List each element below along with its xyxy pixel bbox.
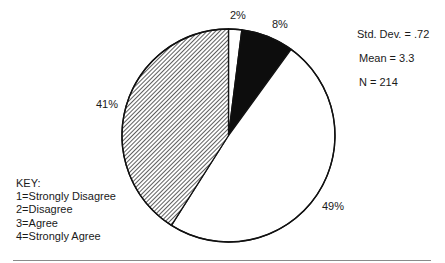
legend-key: KEY: 1=Strongly Disagree 2=Disagree 3=Ag… xyxy=(16,177,116,243)
legend-item-1: 1=Strongly Disagree xyxy=(16,190,116,203)
pie-slices xyxy=(122,29,335,242)
mean-text: Mean = 3.3 xyxy=(359,52,429,64)
slice-label-disagree: 8% xyxy=(272,18,288,30)
legend-item-4: 4=Strongly Agree xyxy=(16,230,116,243)
legend-item-2: 2=Disagree xyxy=(16,203,116,216)
std-dev-text: Std. Dev. = .72 xyxy=(357,28,429,40)
legend-title: KEY: xyxy=(16,177,116,190)
slice-label-strongly-agree: 41% xyxy=(96,98,118,110)
bottom-divider xyxy=(13,260,431,261)
statistics-box: Std. Dev. = .72 Mean = 3.3 N = 214 xyxy=(357,28,429,100)
legend-item-3: 3=Agree xyxy=(16,217,116,230)
slice-label-agree: 49% xyxy=(322,200,344,212)
slice-label-strongly-disagree: 2% xyxy=(230,9,246,21)
n-text: N = 214 xyxy=(359,76,429,88)
